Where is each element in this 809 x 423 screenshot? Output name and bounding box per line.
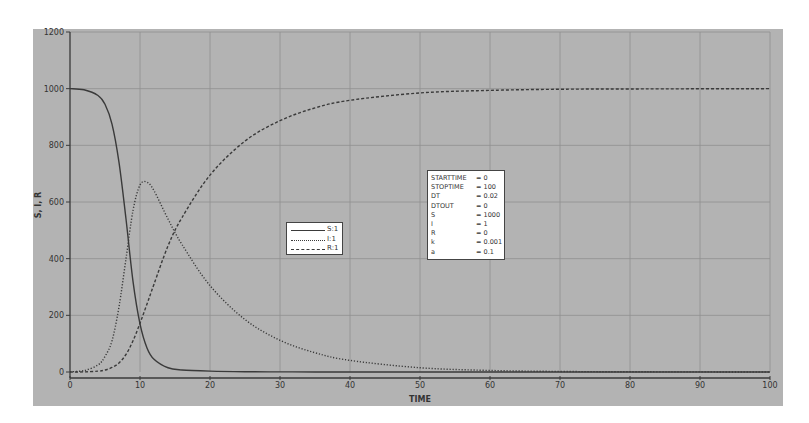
gridlines <box>70 32 770 372</box>
dashed-line-icon <box>291 249 325 250</box>
y-tick-label: 1200 <box>44 28 64 37</box>
x-tick-label: 90 <box>695 381 705 390</box>
legend: S:1 I:1 R:1 <box>286 222 343 255</box>
y-tick-label: 800 <box>49 141 64 150</box>
x-tick-label: 40 <box>345 381 355 390</box>
param-row: R= 0 <box>431 229 504 238</box>
param-row: DTOUT= 0 <box>431 202 504 211</box>
param-row: S= 1000 <box>431 211 504 220</box>
x-tick-label: 70 <box>555 381 565 390</box>
plot-area: 0102030405060708090100020040060080010001… <box>0 0 809 423</box>
x-tick-label: 100 <box>762 381 777 390</box>
x-axis-title: TIME <box>409 395 431 404</box>
param-row: DT= 0.02 <box>431 192 504 201</box>
y-axis-title: S, I, R <box>34 192 43 219</box>
solid-line-icon <box>291 230 325 231</box>
x-tick-label: 30 <box>275 381 285 390</box>
param-row: I= 1 <box>431 220 504 229</box>
legend-label: R:1 <box>327 244 338 252</box>
y-tick-label: 0 <box>59 368 64 377</box>
legend-label: S:1 <box>327 225 338 233</box>
x-tick-label: 60 <box>485 381 495 390</box>
y-tick-label: 400 <box>49 255 64 264</box>
legend-item-r: R:1 <box>290 245 342 254</box>
param-row: k= 0.001 <box>431 238 504 247</box>
y-tick-label: 600 <box>49 198 64 207</box>
param-row: STARTTIME= 0 <box>431 174 504 183</box>
y-tick-label: 200 <box>49 311 64 320</box>
x-tick-label: 0 <box>67 381 72 390</box>
x-tick-label: 80 <box>625 381 635 390</box>
dotted-line-icon <box>291 240 325 241</box>
param-row: a= 0.1 <box>431 248 504 257</box>
x-tick-label: 50 <box>415 381 425 390</box>
param-row: STOPTIME= 100 <box>431 183 504 192</box>
x-tick-label: 20 <box>205 381 215 390</box>
axes: 0102030405060708090100020040060080010001… <box>44 28 778 390</box>
legend-label: I:1 <box>327 235 336 243</box>
parameters-box: STARTTIME= 0 STOPTIME= 100 DT= 0.02 DTOU… <box>427 170 505 260</box>
y-tick-label: 1000 <box>44 85 64 94</box>
x-tick-label: 10 <box>135 381 145 390</box>
